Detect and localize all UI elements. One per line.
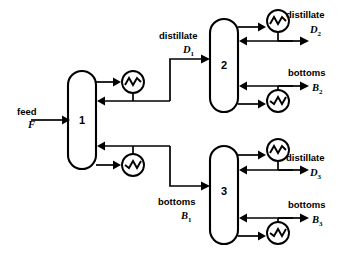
column-3-bottoms-to-reboiler-arrowhead [258,232,266,241]
bottoms-3-label-word: bottoms [288,199,325,210]
flowsheet-canvas: 1 feed F distillate D1 bottoms B1 2 dist… [0,0,348,265]
column-3-boilup-arrowhead [239,214,247,223]
distillate-1-line [170,59,203,101]
distillate-3-label-word: distillate [286,152,325,163]
column-1-reflux-arrowhead [97,97,105,106]
bottoms-1-line [170,146,203,186]
column-1-bottoms-to-reboiler-arrowhead [113,161,121,170]
bottoms-1-label-symbol: B1 [180,210,192,224]
bottoms-1-label-word: bottoms [158,196,195,207]
distillate-3-label-symbol: D3 [309,167,322,181]
distillate-3-arrowhead [300,166,309,175]
column-1-boilup-arrowhead [97,142,105,151]
column-1-vapor-arrowhead [113,78,121,87]
column-3-reflux-arrowhead [239,166,247,175]
column-2-reflux-arrowhead [239,37,247,46]
feed-label-symbol: F [27,119,35,130]
column-2-vapor-arrowhead [258,23,266,32]
bottoms-2-label-word: bottoms [288,67,325,78]
bottoms-3-arrowhead [300,214,309,223]
column-2-boilup-arrowhead [239,82,247,91]
bottoms-2-arrowhead [300,82,309,91]
process-flow-diagram: 1 feed F distillate D1 bottoms B1 2 dist… [0,0,348,265]
column-1-label: 1 [79,114,85,126]
bottoms-2-label-symbol: B2 [311,82,323,96]
bottoms-3-label-symbol: B3 [311,214,323,228]
feed-label-word: feed [17,106,37,117]
distillate-2-label-word: distillate [286,9,325,20]
distillate-1-label-word: distillate [159,30,198,41]
column-3-label: 3 [221,185,227,197]
column-2-bottoms-to-reboiler-arrowhead [258,100,266,109]
column-2-label: 2 [221,59,227,71]
column-3-vapor-arrowhead [258,151,266,160]
distillate-1-arrowhead [201,55,210,64]
distillate-1-label-symbol: D1 [182,44,195,58]
distillate-2-arrowhead [300,37,309,46]
distillate-2-label-symbol: D2 [309,24,322,38]
bottoms-1-arrowhead [201,182,210,191]
